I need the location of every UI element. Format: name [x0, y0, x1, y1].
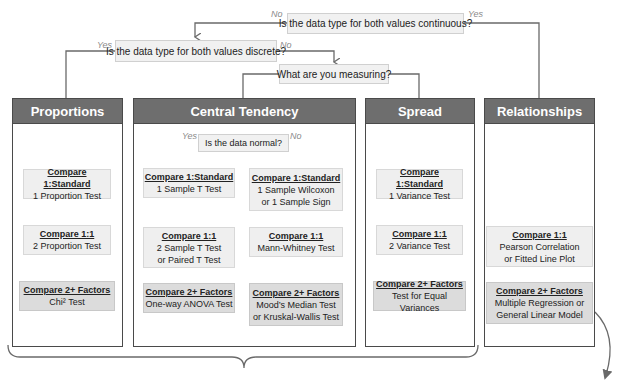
box-heading: Compare 1:Standard	[145, 171, 234, 183]
box-heading: Compare 1:1	[162, 230, 217, 242]
label-continuous-yes: Yes	[468, 9, 483, 19]
proportions-compare-1-1: Compare 1:1 2 Proportion Test	[23, 225, 111, 255]
spread-compare-2-factors: Compare 2+ Factors Test for Equal Varian…	[373, 281, 466, 311]
proportions-compare-1-standard: Compare 1:Standard 1 Proportion Test	[23, 169, 111, 199]
proportions-compare-2-factors: Compare 2+ Factors Chi² Test	[19, 281, 115, 311]
ct-nonnormal-compare-1-standard: Compare 1:Standard 1 Sample Wilcoxon or …	[249, 168, 343, 211]
box-heading: Compare 2+ Factors	[376, 278, 463, 290]
ct-normal-compare-1-1: Compare 1:1 2 Sample T Test or Paired T …	[143, 227, 235, 268]
box-heading: Compare 1:1	[512, 229, 567, 241]
box-text: Chi² Test	[49, 296, 84, 308]
question-measuring: What are you measuring?	[279, 64, 389, 84]
box-text: Test for Equal Variances	[374, 290, 465, 314]
ct-nonnormal-compare-1-1: Compare 1:1 Mann-Whitney Test	[249, 227, 343, 257]
box-heading: Compare 1:Standard	[24, 166, 110, 190]
box-heading: Compare 2+ Factors	[253, 287, 340, 299]
label-discrete-no: No	[280, 40, 292, 50]
question-continuous: Is the data type for both values continu…	[287, 13, 464, 34]
panel-title-relationships: Relationships	[485, 99, 594, 124]
box-text: 1 Proportion Test	[33, 190, 101, 202]
spread-compare-1-standard: Compare 1:Standard 1 Variance Test	[376, 169, 463, 199]
label-continuous-no: No	[271, 9, 283, 19]
box-text: or Paired T Test	[157, 254, 220, 266]
box-text: 1 Sample Wilcoxon	[257, 184, 334, 196]
box-text: 2 Sample T Test	[157, 242, 222, 254]
label-discrete-yes: Yes	[97, 40, 112, 50]
ct-normal-compare-2-factors: Compare 2+ Factors One-way ANOVA Test	[143, 283, 235, 313]
box-text: Mood’s Median Test	[256, 299, 336, 311]
ct-normal-compare-1-standard: Compare 1:Standard 1 Sample T Test	[143, 168, 235, 198]
label-normal-no: No	[290, 131, 302, 141]
box-text: Pearson Correlation	[499, 241, 579, 253]
panel-title-proportions: Proportions	[13, 99, 122, 124]
relationships-compare-1-1: Compare 1:1 Pearson Correlation or Fitte…	[486, 226, 593, 267]
relationships-compare-2-factors: Compare 2+ Factors Multiple Regression o…	[486, 282, 593, 324]
box-text: Mann-Whitney Test	[258, 242, 335, 254]
box-text: General Linear Model	[496, 309, 583, 321]
box-heading: Compare 2+ Factors	[146, 286, 233, 298]
box-heading: Compare 2+ Factors	[496, 285, 583, 297]
box-text: 2 Proportion Test	[33, 240, 101, 252]
box-text: or Fitted Line Plot	[504, 253, 575, 265]
ct-nonnormal-compare-2-factors: Compare 2+ Factors Mood’s Median Test or…	[249, 283, 343, 326]
box-heading: Compare 1:Standard	[377, 166, 462, 190]
label-normal-yes: Yes	[182, 131, 197, 141]
panel-title-central-tendency: Central Tendency	[134, 99, 355, 124]
box-text: or Kruskal-Wallis Test	[253, 311, 339, 323]
box-heading: Compare 1:Standard	[252, 172, 341, 184]
box-heading: Compare 2+ Factors	[24, 284, 111, 296]
box-heading: Compare 1:1	[40, 228, 95, 240]
box-text: or 1 Sample Sign	[261, 196, 330, 208]
question-discrete: Is the data type for both values discret…	[115, 40, 277, 62]
box-heading: Compare 1:1	[269, 230, 324, 242]
box-text: 2 Variance Test	[389, 240, 450, 252]
box-text: 1 Variance Test	[389, 190, 450, 202]
question-normal: Is the data normal?	[198, 134, 289, 152]
box-text: One-way ANOVA Test	[145, 298, 232, 310]
box-text: Multiple Regression or	[495, 297, 585, 309]
panel-title-spread: Spread	[366, 99, 474, 124]
box-text: 1 Sample T Test	[157, 183, 222, 195]
spread-compare-1-1: Compare 1:1 2 Variance Test	[376, 225, 463, 255]
box-heading: Compare 1:1	[392, 228, 447, 240]
